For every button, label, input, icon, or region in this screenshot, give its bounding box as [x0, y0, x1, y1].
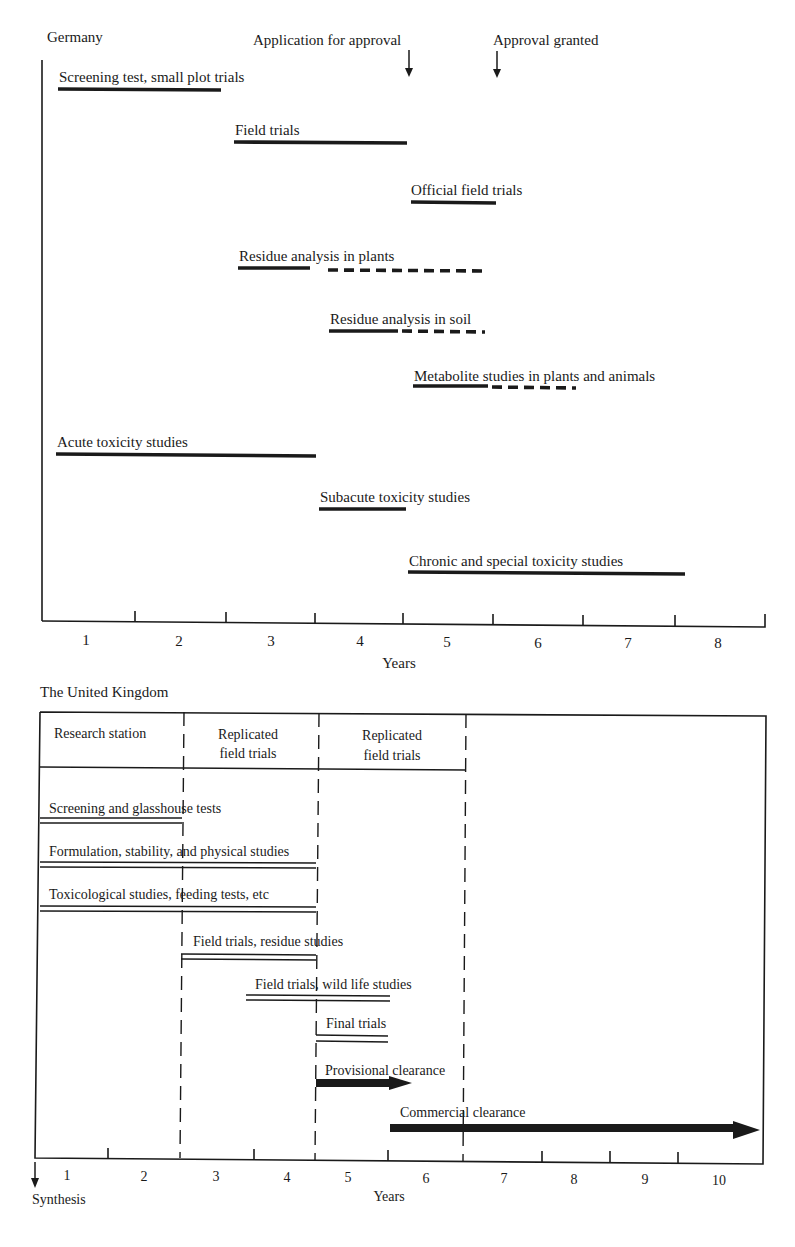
svg-text:Commercial clearance: Commercial clearance: [400, 1105, 526, 1120]
uk-chart: The United Kingdom Research station Repl…: [31, 684, 766, 1207]
svg-text:Field trials, residue studies: Field trials, residue studies: [193, 934, 343, 949]
svg-text:9: 9: [642, 1172, 649, 1187]
svg-text:Toxicological studies, feeding: Toxicological studies, feeding tests, et…: [49, 887, 269, 902]
task-commercial-clearance: Commercial clearance: [390, 1105, 760, 1139]
uk-title: The United Kingdom: [40, 684, 169, 700]
svg-text:3: 3: [267, 633, 275, 649]
germany-title: Germany: [47, 29, 103, 45]
marker-application-label: Application for approval: [253, 32, 401, 48]
task-official-field-trials: Official field trials: [411, 182, 523, 203]
svg-text:1: 1: [82, 632, 90, 648]
synthesis-label: Synthesis: [32, 1192, 86, 1207]
phase-replicated-2-line2: field trials: [363, 748, 420, 763]
svg-text:Field trials, wild life studie: Field trials, wild life studies: [255, 977, 412, 992]
task-screening-glasshouse: Screening and glasshouse tests: [40, 801, 221, 823]
phase-separator: [180, 712, 184, 1158]
svg-text:Formulation, stability, and ph: Formulation, stability, and physical stu…: [49, 844, 289, 859]
timeline-figure: Germany Application for approval Approva…: [0, 0, 795, 1247]
task-final-trials: Final trials: [316, 1016, 388, 1042]
svg-text:4: 4: [356, 633, 364, 649]
task-residue-plants: Residue analysis in plants: [238, 248, 485, 271]
uk-frame: [35, 712, 766, 1164]
svg-text:6: 6: [423, 1171, 430, 1186]
germany-chart: Germany Application for approval Approva…: [42, 29, 765, 671]
svg-text:Subacute toxicity studies: Subacute toxicity studies: [320, 489, 470, 505]
svg-text:Screening and glasshouse tests: Screening and glasshouse tests: [49, 801, 221, 816]
svg-text:7: 7: [501, 1171, 508, 1186]
svg-text:1: 1: [64, 1168, 71, 1183]
task-provisional-clearance: Provisional clearance: [316, 1063, 445, 1090]
task-formulation-stability: Formulation, stability, and physical stu…: [40, 844, 316, 868]
svg-text:10: 10: [712, 1173, 726, 1188]
phase-header-divider: [40, 767, 466, 770]
task-acute-toxicity: Acute toxicity studies: [56, 434, 316, 456]
arrow-down-icon: [493, 51, 501, 78]
synthesis-arrow-icon: [31, 1162, 39, 1188]
svg-text:2: 2: [175, 633, 183, 649]
svg-text:2: 2: [141, 1169, 148, 1184]
svg-text:Screening test, small plot tri: Screening test, small plot trials: [59, 69, 245, 85]
svg-text:3: 3: [213, 1169, 220, 1184]
marker-approval-label: Approval granted: [493, 32, 599, 48]
svg-text:5: 5: [345, 1170, 352, 1185]
svg-text:Residue analysis in plants: Residue analysis in plants: [239, 248, 395, 264]
task-chronic-toxicity: Chronic and special toxicity studies: [408, 553, 685, 574]
x-axis-label: Years: [373, 1189, 404, 1204]
task-screening-test: Screening test, small plot trials: [58, 69, 245, 90]
task-field-trials-residue: Field trials, residue studies: [181, 934, 343, 960]
arrow-right-icon: [390, 1121, 760, 1139]
svg-text:Chronic and special toxicity s: Chronic and special toxicity studies: [409, 553, 623, 569]
svg-text:Residue analysis in soil: Residue analysis in soil: [330, 311, 471, 327]
svg-text:8: 8: [571, 1172, 578, 1187]
task-subacute-toxicity: Subacute toxicity studies: [319, 489, 470, 509]
task-metabolite-studies: Metabolite studies in plants and animals: [413, 368, 655, 388]
x-axis-tick-labels: 1 2 3 4 5 6 7 8: [82, 632, 722, 651]
svg-text:Metabolite studies in plants a: Metabolite studies in plants and animals: [414, 368, 655, 384]
task-residue-soil: Residue analysis in soil: [329, 311, 485, 332]
svg-text:7: 7: [624, 635, 632, 651]
phase-research-station: Research station: [54, 726, 146, 741]
arrow-down-icon: [405, 50, 413, 77]
x-axis-tick-labels: 1 2 3 4 5 6 7 8 9 10: [64, 1168, 727, 1188]
svg-text:5: 5: [443, 634, 451, 650]
phase-replicated-1-line1: Replicated: [218, 727, 278, 742]
svg-text:4: 4: [284, 1170, 291, 1185]
svg-text:Acute toxicity studies: Acute toxicity studies: [57, 434, 188, 450]
phase-separator: [463, 714, 466, 1162]
arrow-right-icon: [316, 1076, 412, 1090]
task-field-trials: Field trials: [234, 122, 407, 143]
phase-replicated-2-line1: Replicated: [362, 728, 422, 743]
svg-text:Provisional clearance: Provisional clearance: [325, 1063, 445, 1078]
phase-replicated-1-line2: field trials: [219, 746, 276, 761]
svg-text:Final trials: Final trials: [326, 1016, 386, 1031]
task-field-trials-wildlife: Field trials, wild life studies: [246, 977, 412, 1001]
task-toxicological-studies: Toxicological studies, feeding tests, et…: [40, 887, 316, 912]
svg-text:8: 8: [714, 635, 722, 651]
x-axis-label: Years: [382, 655, 416, 671]
svg-text:Official field trials: Official field trials: [411, 182, 523, 198]
svg-text:6: 6: [534, 635, 542, 651]
svg-text:Field trials: Field trials: [235, 122, 300, 138]
